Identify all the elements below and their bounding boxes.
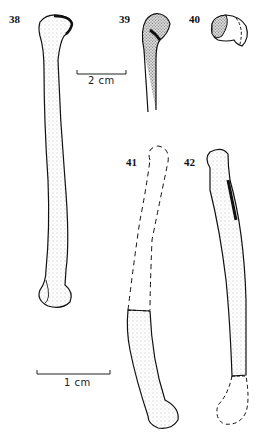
figure-label-40: 40 bbox=[189, 13, 200, 25]
figure-label-39: 39 bbox=[119, 13, 130, 25]
scale-label-2cm: 2 cm bbox=[88, 75, 115, 86]
bone-42 bbox=[207, 149, 248, 424]
bone-38 bbox=[39, 15, 72, 307]
figure-label-38: 38 bbox=[9, 13, 20, 25]
figure-label-41: 41 bbox=[126, 156, 137, 168]
bone-41 bbox=[127, 146, 178, 428]
bone-40 bbox=[212, 15, 248, 46]
scale-bar-1cm bbox=[37, 370, 110, 374]
scale-label-1cm: 1 cm bbox=[64, 377, 91, 388]
bone-39 bbox=[142, 14, 170, 112]
bone-illustrations bbox=[0, 0, 279, 445]
scale-bar-2cm bbox=[77, 70, 126, 74]
figure-label-42: 42 bbox=[184, 156, 195, 168]
